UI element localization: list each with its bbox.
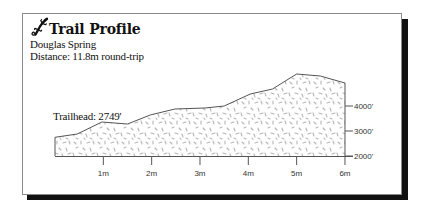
elevation-area: [55, 74, 345, 156]
y-tick-label: 3000': [354, 127, 374, 136]
x-tick-label: 3m: [194, 169, 205, 178]
x-tick-label: 1m: [98, 169, 109, 178]
y-tick-label: 4000': [354, 102, 374, 111]
elevation-chart: 1m2m3m4m5m6m2000'3000'4000': [0, 0, 425, 211]
x-tick-label: 5m: [291, 169, 302, 178]
elevation-profile: [55, 74, 345, 156]
y-tick-label: 2000': [354, 152, 374, 161]
x-tick-label: 2m: [146, 169, 157, 178]
x-tick-label: 4m: [243, 169, 254, 178]
x-tick-label: 6m: [339, 169, 350, 178]
